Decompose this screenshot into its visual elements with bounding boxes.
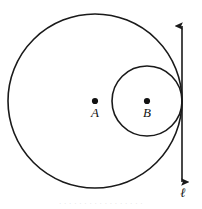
point-b-label: B xyxy=(143,105,151,120)
tangent-line-label: ℓ xyxy=(180,185,186,200)
partial-caption-text: · · · · · · · · · · · · · · · · · xyxy=(0,199,202,209)
point-a-dot xyxy=(92,98,98,104)
point-a-label: A xyxy=(90,105,99,120)
geometry-figure: A B ℓ · · · · · · · · · · · · · · · · · xyxy=(0,0,202,209)
point-b-dot xyxy=(144,98,150,104)
diagram-canvas: A B ℓ xyxy=(0,0,202,209)
